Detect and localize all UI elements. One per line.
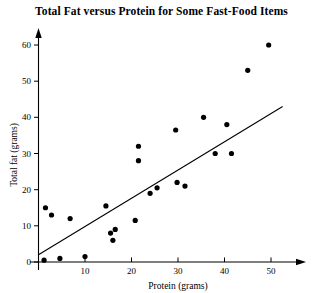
data-point: [182, 183, 187, 188]
y-tick-label-60: 60: [22, 40, 32, 50]
data-point: [201, 115, 206, 120]
x-axis-ticks: [85, 258, 271, 263]
data-point: [113, 227, 118, 232]
chart-page: Total Fat versus Protein for Some Fast-F…: [0, 0, 323, 293]
data-point: [43, 205, 48, 210]
data-point: [133, 218, 138, 223]
x-tick-label-20: 20: [127, 266, 137, 276]
x-tick-label-50: 50: [267, 266, 277, 276]
data-point: [148, 191, 153, 196]
data-point: [41, 258, 46, 263]
y-tick-label-50: 50: [22, 76, 32, 86]
data-point: [110, 238, 115, 243]
x-tick-label-10: 10: [81, 266, 91, 276]
x-axis: [30, 259, 306, 265]
data-point: [213, 151, 218, 156]
trend-line-segment: [39, 106, 283, 254]
data-point: [266, 42, 271, 47]
data-point: [82, 254, 87, 259]
y-tick-label-10: 10: [22, 221, 32, 231]
data-point: [68, 216, 73, 221]
x-tick-label-30: 30: [174, 266, 184, 276]
x-axis-arrow: [296, 259, 306, 265]
y-tick-label-40: 40: [22, 112, 32, 122]
data-point: [108, 230, 113, 235]
y-axis-tick-labels: 0 10 20 30 40 50 60: [22, 40, 32, 267]
y-tick-label-30: 30: [22, 149, 32, 159]
data-point: [103, 203, 108, 208]
scatter-plot: 0 10 20 30 40 50 60 10 20 30 40 50 Prote…: [0, 0, 323, 293]
data-point: [57, 256, 62, 261]
x-tick-label-40: 40: [220, 266, 230, 276]
x-axis-title: Protein (grams): [148, 281, 207, 292]
data-point: [173, 127, 178, 132]
data-point: [136, 158, 141, 163]
data-point: [245, 68, 250, 73]
y-axis-ticks: [34, 45, 39, 262]
y-tick-label-0: 0: [27, 257, 32, 267]
y-tick-label-20: 20: [22, 185, 32, 195]
data-point: [229, 151, 234, 156]
data-point: [224, 122, 229, 127]
y-axis: [35, 28, 41, 270]
data-points: [41, 42, 271, 262]
data-point: [49, 212, 54, 217]
x-axis-tick-labels: 10 20 30 40 50: [81, 266, 277, 276]
y-axis-arrow: [35, 28, 41, 38]
data-point: [154, 185, 159, 190]
y-axis-title: Total fat (grams): [9, 123, 20, 187]
data-point: [136, 144, 141, 149]
data-point: [174, 180, 179, 185]
trend-line: [39, 106, 283, 254]
